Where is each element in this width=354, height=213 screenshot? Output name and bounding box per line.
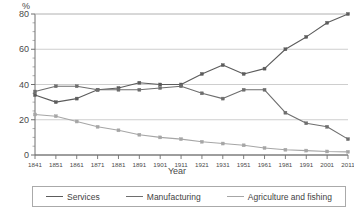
data-point-0-11	[263, 67, 266, 70]
legend-swatch-agriculture-and-fishing	[227, 196, 244, 197]
data-point-2-11	[263, 146, 266, 149]
data-point-2-6	[159, 136, 162, 139]
data-point-2-0	[34, 113, 37, 116]
legend-label-agriculture-and-fishing: Agriculture and fishing	[248, 192, 332, 202]
data-point-0-2	[75, 97, 78, 100]
data-point-2-1	[54, 115, 57, 118]
legend-item-services[interactable]: Services	[46, 192, 100, 202]
data-point-1-6	[159, 87, 162, 90]
data-point-1-14	[326, 125, 329, 128]
y-tick-label-40: 40	[19, 80, 29, 90]
legend-swatch-manufacturing	[126, 196, 143, 197]
legend-label-services: Services	[67, 192, 100, 202]
data-point-0-13	[305, 35, 308, 38]
data-point-0-1	[54, 101, 57, 104]
data-point-2-4	[117, 129, 120, 132]
data-point-1-12	[284, 111, 287, 114]
data-point-1-5	[138, 88, 141, 91]
data-point-2-13	[305, 149, 308, 152]
data-point-1-13	[305, 122, 308, 125]
line-chart-plot: 0204060801841185118611871188118911901191…	[0, 0, 354, 213]
legend-item-agriculture-and-fishing[interactable]: Agriculture and fishing	[227, 192, 332, 202]
y-tick-label-80: 80	[19, 9, 29, 19]
data-point-2-7	[180, 138, 183, 141]
chart-legend: Services Manufacturing Agriculture and f…	[32, 186, 346, 207]
data-point-0-0	[34, 94, 37, 97]
legend-swatch-services	[46, 196, 63, 197]
data-point-1-0	[34, 90, 37, 93]
x-axis-title: Year	[0, 166, 354, 176]
data-point-1-9	[221, 97, 224, 100]
data-point-0-10	[242, 72, 245, 75]
y-tick-label-60: 60	[19, 44, 29, 54]
data-point-0-6	[159, 83, 162, 86]
data-point-2-3	[96, 125, 99, 128]
data-point-0-8	[200, 72, 203, 75]
data-point-0-5	[138, 81, 141, 84]
data-point-2-15	[347, 150, 350, 153]
data-point-1-15	[347, 138, 350, 141]
data-point-0-14	[326, 21, 329, 24]
legend-item-manufacturing[interactable]: Manufacturing	[126, 192, 201, 202]
y-tick-label-20: 20	[19, 115, 29, 125]
data-point-1-1	[54, 85, 57, 88]
data-point-2-9	[221, 142, 224, 145]
data-point-2-2	[75, 120, 78, 123]
legend-label-manufacturing: Manufacturing	[147, 192, 201, 202]
chart-container: % 02040608018411851186118711881189119011…	[0, 0, 354, 213]
data-point-0-12	[284, 48, 287, 51]
y-tick-label-0: 0	[24, 150, 29, 160]
data-point-2-8	[200, 140, 203, 143]
series-line-0	[35, 14, 348, 102]
data-point-1-11	[263, 88, 266, 91]
data-point-1-3	[96, 88, 99, 91]
data-point-0-15	[347, 13, 350, 16]
data-point-1-7	[180, 85, 183, 88]
data-point-1-2	[75, 85, 78, 88]
data-point-2-10	[242, 144, 245, 147]
data-point-2-14	[326, 150, 329, 153]
data-point-1-8	[200, 92, 203, 95]
data-point-0-9	[221, 64, 224, 67]
data-point-2-5	[138, 133, 141, 136]
data-point-1-4	[117, 88, 120, 91]
data-point-2-12	[284, 148, 287, 151]
series-line-1	[35, 86, 348, 139]
data-point-1-10	[242, 88, 245, 91]
